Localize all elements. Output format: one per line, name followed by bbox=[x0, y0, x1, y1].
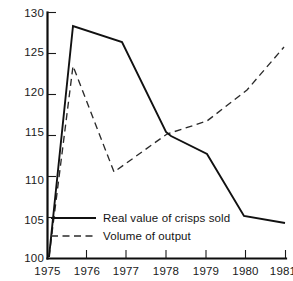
x-tick-label-1975: 1975 bbox=[34, 265, 60, 277]
y-tick-label-125: 125 bbox=[24, 46, 44, 58]
x-tick-label-1979: 1979 bbox=[193, 265, 219, 277]
y-axis-tick-labels: 130 125 120 115 110 105 100 bbox=[24, 7, 44, 264]
y-tick-label-105: 105 bbox=[24, 214, 44, 226]
line-chart: 130 125 120 115 110 105 100 bbox=[0, 0, 293, 281]
chart-legend: Real value of crisps sold Volume of outp… bbox=[51, 212, 230, 242]
y-tick-label-130: 130 bbox=[24, 7, 44, 19]
y-tick-label-120: 120 bbox=[24, 86, 44, 98]
legend-label-volume-of-output: Volume of output bbox=[103, 230, 192, 242]
y-tick-label-100: 100 bbox=[24, 252, 44, 264]
series-line-volume-of-output bbox=[49, 47, 284, 257]
x-tick-label-1977: 1977 bbox=[113, 265, 139, 277]
chart-plot-area: 130 125 120 115 110 105 100 bbox=[0, 0, 293, 281]
x-tick-label-1978: 1978 bbox=[153, 265, 179, 277]
y-tick-label-115: 115 bbox=[25, 126, 44, 138]
x-tick-label-1981: 1981 bbox=[270, 265, 293, 277]
x-axis-tick-labels: 1975 1976 1977 1978 1979 1980 1981 bbox=[34, 265, 293, 277]
x-tick-label-1980: 1980 bbox=[232, 265, 258, 277]
y-tick-label-110: 110 bbox=[25, 174, 44, 186]
x-axis bbox=[48, 250, 287, 259]
x-tick-label-1976: 1976 bbox=[74, 265, 100, 277]
legend-label-real-value: Real value of crisps sold bbox=[103, 212, 230, 224]
